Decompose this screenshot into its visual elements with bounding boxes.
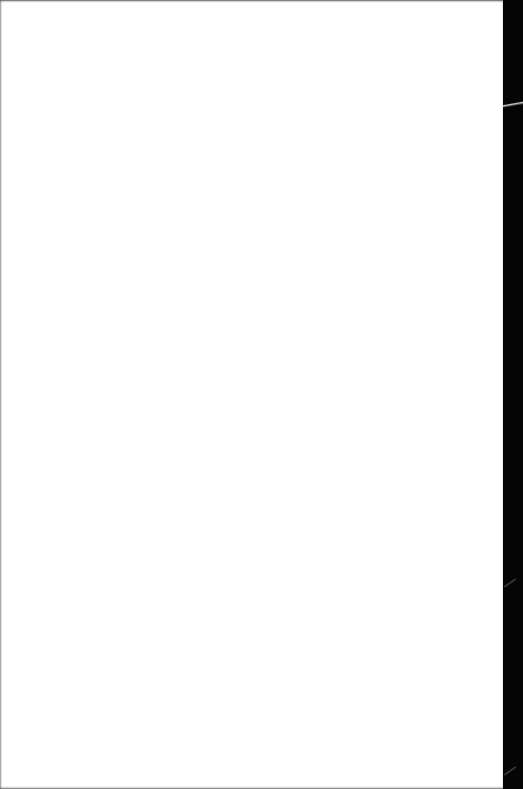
scan-edge-border	[503, 0, 523, 789]
blank-document-page	[0, 0, 503, 789]
page-fold-highlight	[503, 100, 523, 108]
